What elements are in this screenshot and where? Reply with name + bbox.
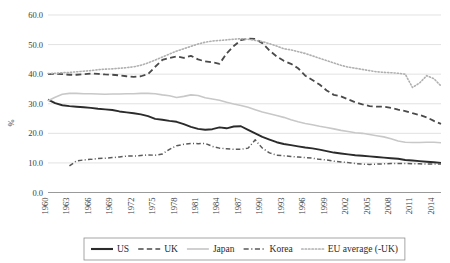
x-tick-label: 2002	[340, 198, 350, 215]
legend-label-uk[interactable]: UK	[164, 244, 178, 254]
x-tick-label: 1966	[83, 198, 93, 215]
y-axis-title: %	[6, 119, 16, 126]
x-tick-label: 1981	[190, 198, 200, 215]
chart-legend: USUKJapanKoreaEU average (-UK)	[84, 238, 405, 260]
y-tick-label: 30.0	[28, 99, 43, 109]
x-tick-label: 1996	[297, 198, 307, 215]
x-tick-label: 1960	[40, 198, 50, 215]
y-tick-label: 40.0	[28, 69, 43, 79]
x-tick-label: 1978	[169, 198, 179, 215]
series-line-japan	[48, 93, 441, 142]
chart-container: 0.010.020.030.040.050.060.0 196019631966…	[0, 0, 450, 263]
legend-label-us[interactable]: US	[117, 244, 129, 254]
series-line-uk	[48, 39, 441, 124]
x-tick-label: 1999	[319, 198, 329, 215]
y-tick-label: 20.0	[28, 128, 43, 138]
series-line-korea	[69, 140, 441, 166]
x-tick-label: 1963	[61, 198, 71, 215]
legend-label-eu-average-uk[interactable]: EU average (-UK)	[328, 244, 398, 255]
y-tick-label: 10.0	[28, 158, 43, 168]
x-tick-label: 2014	[426, 197, 436, 215]
y-tick-label: 0.0	[32, 188, 43, 198]
x-tick-label: 1990	[254, 198, 264, 215]
x-tick-label: 1993	[276, 198, 286, 215]
gridlines	[48, 15, 441, 163]
y-tick-label: 50.0	[28, 40, 43, 50]
x-tick-label: 1969	[104, 198, 114, 215]
x-tick-label: 1984	[211, 197, 221, 215]
legend-label-japan[interactable]: Japan	[213, 244, 235, 254]
data-series-group	[48, 39, 441, 166]
series-line-us	[48, 100, 441, 163]
x-tick-label: 2011	[404, 198, 414, 215]
x-axis-tick-labels: 1960196319661969197219751978198119841987…	[40, 197, 436, 215]
legend-label-korea[interactable]: Korea	[270, 244, 294, 254]
x-tick-label: 1987	[233, 198, 243, 215]
series-line-eu-average-uk	[48, 39, 441, 88]
y-tick-label: 60.0	[28, 10, 43, 20]
x-tick-label: 1975	[147, 198, 157, 215]
line-chart: 0.010.020.030.040.050.060.0 196019631966…	[0, 0, 450, 263]
x-tick-label: 2005	[362, 198, 372, 215]
x-tick-label: 2008	[383, 198, 393, 215]
y-axis-tick-labels: 0.010.020.030.040.050.060.0	[28, 10, 43, 198]
x-tick-label: 1972	[126, 198, 136, 215]
